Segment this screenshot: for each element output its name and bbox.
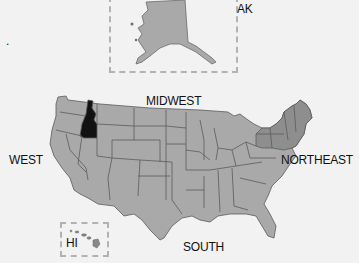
contiguous-us bbox=[50, 96, 312, 240]
region-label-midwest: MIDWEST bbox=[146, 94, 201, 108]
inset-label-hi: HI bbox=[66, 236, 78, 250]
alaska-shape bbox=[131, 0, 217, 64]
us-regions-map: . bbox=[0, 0, 359, 263]
region-label-northeast: NORTHEAST bbox=[281, 153, 353, 167]
inset-label-ak: AK bbox=[237, 2, 253, 16]
region-label-south: SOUTH bbox=[183, 240, 224, 254]
region-label-west: WEST bbox=[9, 153, 43, 167]
northeast-region bbox=[256, 100, 312, 150]
map-graphic bbox=[0, 0, 359, 263]
